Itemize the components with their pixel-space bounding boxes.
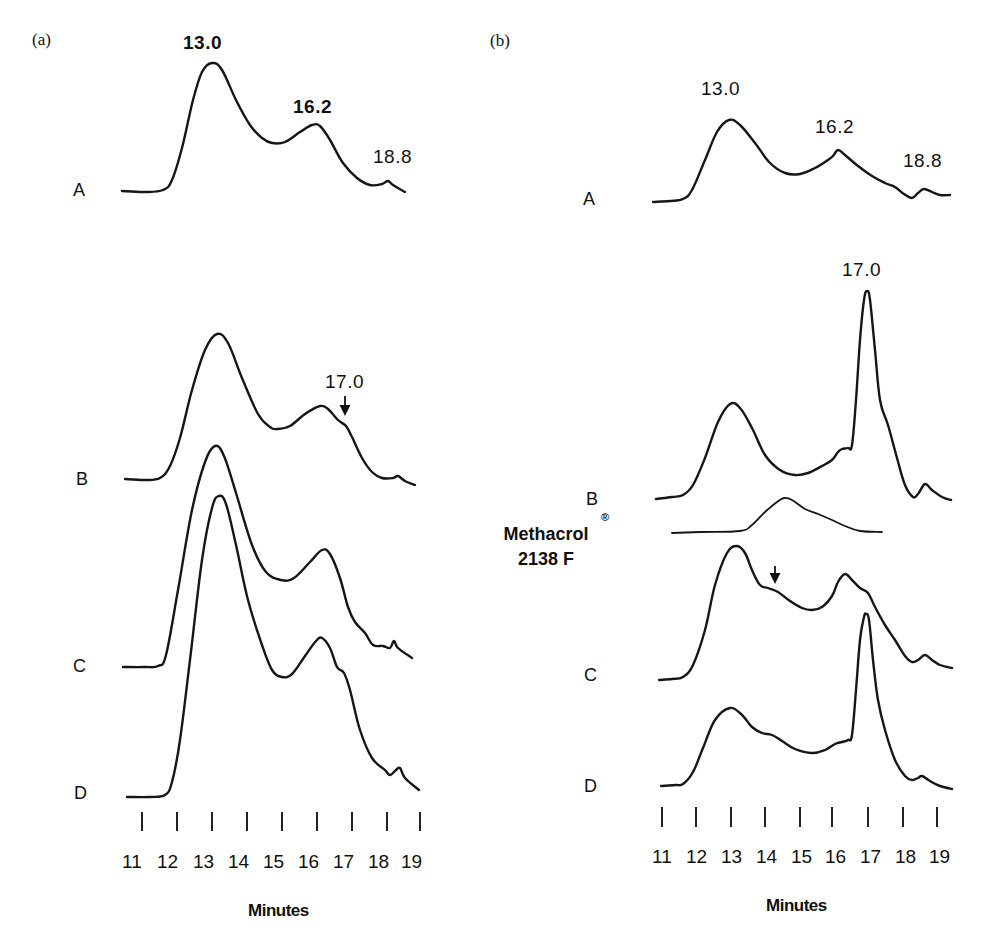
- panel-a-tag: (a): [32, 30, 51, 50]
- peak-label-17-0: 17.0: [842, 259, 881, 281]
- trace-b-methacrol: [672, 498, 882, 533]
- trace-label-B: B: [586, 489, 598, 510]
- peak-label-18-8: 18.8: [373, 146, 412, 168]
- trace-label-C: C: [73, 656, 86, 677]
- chromatogram-figure: (a) 13.0 16.2 18.8 17.0 A B C D 11 12 13…: [0, 0, 990, 939]
- tick-label: 19: [401, 851, 422, 873]
- tick-label: 15: [263, 851, 284, 873]
- tick-label: 14: [228, 851, 249, 873]
- tick-label: 16: [298, 851, 319, 873]
- x-axis-title-b: Minutes: [766, 896, 827, 916]
- chromatogram-plot-area: [0, 0, 990, 939]
- tick-label: 18: [368, 851, 389, 873]
- peak-label-13-0: 13.0: [183, 32, 222, 54]
- trace-b-B: [656, 291, 951, 500]
- trace-label-B: B: [76, 469, 88, 490]
- tick-label: 15: [791, 846, 812, 868]
- tick-label: 11: [652, 846, 672, 868]
- trace-a-A: [122, 63, 405, 192]
- x-axis-ticks-b: [662, 807, 937, 827]
- tick-label: 19: [929, 846, 950, 868]
- tick-label: 17: [860, 846, 881, 868]
- tick-label: 12: [686, 846, 707, 868]
- registered-mark: ®: [601, 511, 609, 523]
- tick-label: 18: [895, 846, 916, 868]
- compound-label-methacrol: Methacrol 2138 F: [490, 522, 602, 572]
- arrow-down-icon: [771, 566, 779, 582]
- trace-b-C: [659, 546, 952, 680]
- panel-b-tag: (b): [490, 31, 510, 51]
- tick-label: 14: [756, 846, 777, 868]
- tick-label: 13: [193, 851, 214, 873]
- trace-label-D: D: [584, 776, 597, 797]
- trace-label-D: D: [74, 783, 87, 804]
- compound-name: Methacrol: [490, 522, 602, 547]
- peak-label-16-2: 16.2: [815, 116, 854, 138]
- tick-label: 17: [333, 851, 354, 873]
- trace-a-B: [125, 334, 415, 485]
- trace-b-D: [661, 613, 952, 789]
- arrow-down-icon: [341, 396, 349, 414]
- x-axis-ticks-a: [142, 812, 420, 831]
- tick-label: 11: [122, 851, 142, 873]
- trace-label-A: A: [583, 189, 595, 210]
- peak-label-18-8: 18.8: [903, 150, 942, 172]
- tick-label: 12: [157, 851, 178, 873]
- peak-label-13-0: 13.0: [701, 78, 740, 100]
- trace-label-C: C: [584, 665, 597, 686]
- compound-grade: 2138 F: [490, 547, 602, 572]
- tick-label: 16: [825, 846, 846, 868]
- peak-label-16-2: 16.2: [293, 96, 332, 118]
- trace-label-A: A: [73, 180, 85, 201]
- peak-label-17-0: 17.0: [325, 371, 364, 393]
- trace-a-C: [123, 446, 412, 667]
- tick-label: 13: [721, 846, 742, 868]
- x-axis-title-a: Minutes: [248, 901, 309, 921]
